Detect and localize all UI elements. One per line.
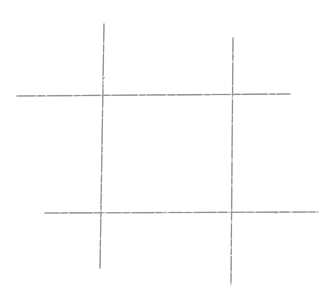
top-horizontal-line: [17, 94, 290, 96]
tic-tac-toe-grid: [0, 0, 333, 298]
bottom-horizontal-line: [45, 212, 318, 213]
right-vertical-line: [231, 38, 233, 285]
sketch-canvas: [0, 0, 333, 298]
left-vertical-line: [100, 24, 104, 268]
